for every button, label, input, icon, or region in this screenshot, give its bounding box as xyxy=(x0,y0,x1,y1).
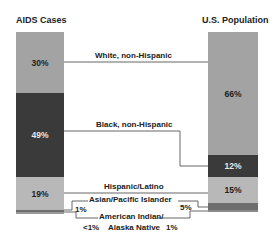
native-left-value: <1% xyxy=(83,223,99,232)
asian-left-value: 1% xyxy=(75,205,87,214)
asian-right-value: 5% xyxy=(180,203,192,212)
hispanic-label: Hispanic/Latino xyxy=(104,182,164,191)
native-label-line1: American Indian/ xyxy=(99,212,163,221)
asian-label: Asian/Pacific Islander xyxy=(89,195,172,204)
native-right-value: 1% xyxy=(166,223,178,232)
black-label: Black, non-Hispanic xyxy=(96,120,172,129)
native-label-line2: Alaska Native xyxy=(108,223,160,232)
white-label: White, non-Hispanic xyxy=(95,51,172,60)
